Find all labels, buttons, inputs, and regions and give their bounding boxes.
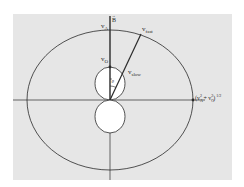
vo-point (109, 66, 112, 69)
magnitude-point (192, 99, 195, 102)
slow-mode-lobe-lower (95, 100, 125, 133)
wave-velocity-diagram: vA B → vfast vO vslow θ (vA2 + vO2)1/2 (0, 0, 244, 187)
label-b-arrow: → (112, 13, 116, 18)
label-b-field: B (112, 17, 116, 23)
